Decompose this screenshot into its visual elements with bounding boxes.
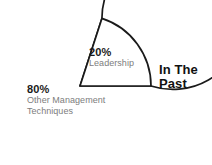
slice-label-leadership: 20% Leadership xyxy=(89,46,134,69)
chart-caption: In The Past xyxy=(159,63,198,91)
slice-name-other-management-line2: Techniques xyxy=(27,106,105,117)
pie-chart: 20% Leadership 80% Other Management Tech… xyxy=(0,0,212,165)
slice-value-leadership: 20% xyxy=(89,46,134,58)
slice-name-leadership: Leadership xyxy=(89,58,134,69)
slice-label-other-management: 80% Other Management Techniques xyxy=(27,83,105,117)
slice-value-other-management: 80% xyxy=(27,83,105,95)
slice-name-other-management-line1: Other Management xyxy=(27,95,105,106)
